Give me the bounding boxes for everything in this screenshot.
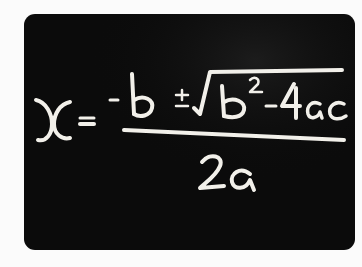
chalkboard: x = (-b ± √(b² - 4ac)) / 2a (24, 14, 355, 250)
quadratic-formula-chalk (24, 14, 355, 250)
